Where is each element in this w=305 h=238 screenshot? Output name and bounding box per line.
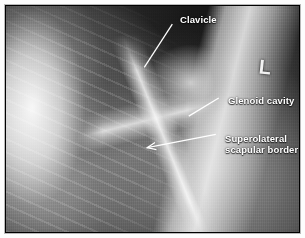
radiograph-image: Clavicle Glenoid cavity Superolateralsca…: [6, 6, 299, 232]
annotation-label-superolateral-scapular-border: Superolateralscapular border: [225, 133, 298, 155]
leader-line-scapular-border: [147, 134, 216, 147]
annotation-label-clavicle: Clavicle: [180, 14, 217, 25]
image-frame: Clavicle Glenoid cavity Superolateralsca…: [4, 4, 301, 234]
annotation-label-glenoid-cavity: Glenoid cavity: [228, 95, 294, 106]
scapular-label-line-2: scapular border: [225, 144, 298, 155]
left-side-marker: L: [258, 56, 272, 77]
annotation-overlay: Clavicle Glenoid cavity Superolateralsca…: [6, 6, 299, 232]
scapular-label-line-1: Superolateral: [225, 133, 287, 144]
leader-lines: [6, 6, 299, 232]
leader-line-clavicle: [144, 24, 172, 67]
leader-line-glenoid-cavity: [189, 98, 219, 116]
figure-container: Clavicle Glenoid cavity Superolateralsca…: [0, 0, 305, 238]
